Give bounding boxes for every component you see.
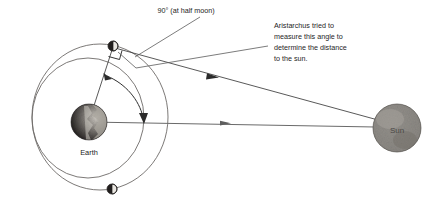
earth-label: Earth (80, 148, 98, 157)
sun-group: Sun (373, 104, 421, 152)
moon-bottom-group (107, 184, 117, 194)
explanation-line-3: determine the distance (274, 43, 347, 52)
right-angle-annotation-text: 90° (at half moon) (157, 6, 214, 15)
explanation-line-4: to the sun. (274, 54, 308, 63)
ray-group (89, 48, 378, 127)
measured-angle-arrowhead-top (104, 73, 113, 81)
earth-group: Earth (61, 104, 108, 157)
moon-sun-arrowhead (206, 73, 219, 79)
right-angle-annotation: 90° (at half moon) (157, 6, 214, 15)
earth-sun-line (89, 122, 375, 127)
explanation-line-2: measure this angle to (274, 32, 343, 41)
explanation-leader-line-2 (118, 52, 136, 68)
moon-sun-line (115, 48, 378, 120)
moon-bottom-lit (112, 184, 117, 194)
moon-top-lit (113, 41, 118, 51)
leader-line-group (118, 17, 268, 68)
diagram-canvas: Earth Sun 90° (at half moon) Aris (0, 0, 437, 205)
right-angle-leader-line (135, 17, 200, 57)
explanation-line-1: Aristarchus tried to (274, 21, 334, 30)
measured-angle-arc (107, 76, 143, 117)
explanation-leader-line (136, 46, 268, 68)
explanation-annotation: Aristarchus tried to measure this angle … (274, 21, 347, 63)
measured-angle-arrowhead-bottom (139, 113, 148, 124)
sun-label: Sun (390, 126, 404, 135)
earth-texture (61, 104, 108, 140)
moon-top-group (108, 41, 118, 51)
